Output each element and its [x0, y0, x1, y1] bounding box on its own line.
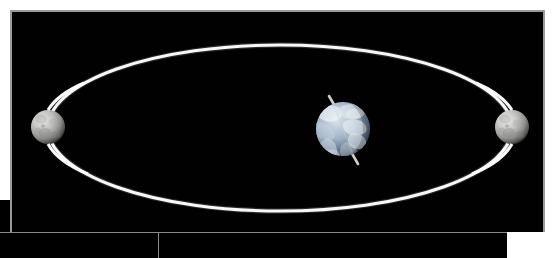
bottom-right-panel — [158, 232, 507, 258]
orbit-scene — [10, 10, 545, 243]
moon-left-body — [31, 110, 65, 144]
bottom-left-panel — [0, 232, 159, 258]
screenshot-root: Moon orbiting the Earth — [0, 0, 553, 258]
bottom-right-white-notch — [507, 232, 553, 258]
moon-right-body — [495, 110, 529, 144]
moon-left-craters — [31, 110, 65, 144]
moon-right-craters — [495, 110, 529, 144]
orbit-figure-frame: Moon orbiting the Earth — [10, 10, 545, 243]
